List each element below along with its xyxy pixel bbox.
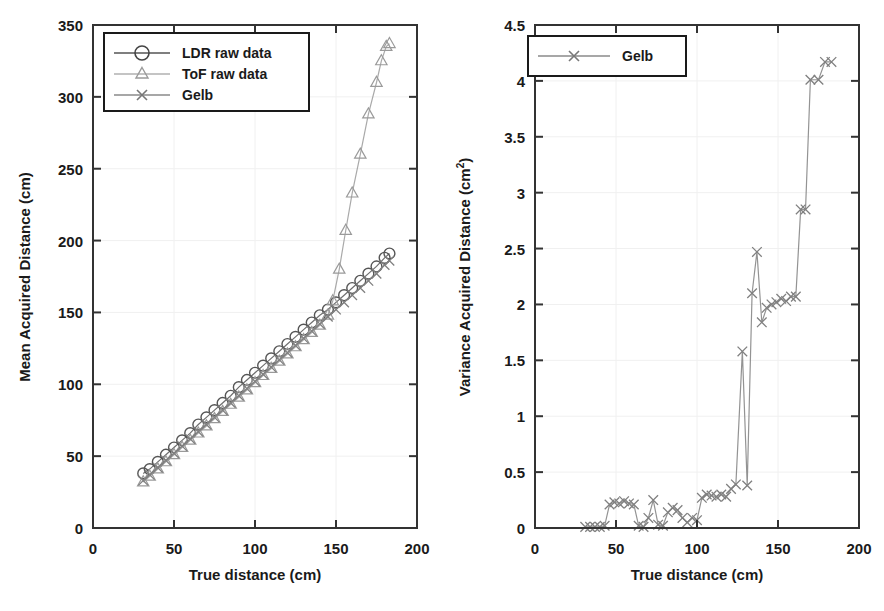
legend-label-gelb: Gelb <box>182 87 213 103</box>
x-tick-label: 0 <box>531 540 539 557</box>
y-tick-label: 3 <box>517 185 525 202</box>
figure-container: 050100150200050100150200250300350 True d… <box>0 0 884 611</box>
x-tick-label: 200 <box>404 540 429 557</box>
x-tick-label: 200 <box>846 540 871 557</box>
right-chart-svg: 05010015020000.511.522.533.544.5 True di… <box>442 0 884 611</box>
legend-label-ldr: LDR raw data <box>182 45 272 61</box>
y-tick-label: 250 <box>58 161 83 178</box>
y-axis-title-group: Variance Acquired Distance (cm2) <box>455 158 473 396</box>
y-tick-label: 50 <box>66 448 83 465</box>
legend-left: LDR raw data ToF raw data Gelb <box>104 33 309 111</box>
chart-panel-right: 05010015020000.511.522.533.544.5 True di… <box>442 0 884 611</box>
y-tick-label: 350 <box>58 17 83 34</box>
y-tick-label: 2.5 <box>504 241 525 258</box>
y-tick-label: 150 <box>58 304 83 321</box>
legend-label-gelb: Gelb <box>622 48 653 64</box>
legend-label-tof: ToF raw data <box>182 66 268 82</box>
x-tick-label: 100 <box>242 540 267 557</box>
y-tick-label: 300 <box>58 89 83 106</box>
y-tick-label: 4.5 <box>504 17 525 34</box>
y-axis-title-main: Variance Acquired Distance (cm <box>456 168 473 396</box>
x-tick-label: 50 <box>608 540 625 557</box>
x-tick-label: 50 <box>166 540 183 557</box>
x-axis-title: True distance (cm) <box>189 566 322 583</box>
left-chart-svg: 050100150200050100150200250300350 True d… <box>0 0 442 611</box>
x-tick-label: 150 <box>765 540 790 557</box>
y-tick-label: 0 <box>75 520 83 537</box>
y-tick-label: 100 <box>58 376 83 393</box>
y-tick-label: 4 <box>517 73 526 90</box>
x-axis-title: True distance (cm) <box>631 566 764 583</box>
y-tick-label: 1 <box>517 408 525 425</box>
y-tick-label: 3.5 <box>504 129 525 146</box>
y-tick-label: 0.5 <box>504 464 525 481</box>
y-axis-title: Variance Acquired Distance (cm2) <box>455 158 473 396</box>
chart-panel-left: 050100150200050100150200250300350 True d… <box>0 0 442 611</box>
legend-entry-ldr[interactable]: LDR raw data <box>114 45 272 61</box>
y-tick-label: 1.5 <box>504 352 525 369</box>
x-tick-label: 100 <box>684 540 709 557</box>
y-axis-title-close: ) <box>456 158 473 163</box>
y-axis-title: Mean Acquired Distance (cm) <box>16 172 33 382</box>
x-tick-label: 150 <box>323 540 348 557</box>
legend-right: Gelb <box>528 36 686 76</box>
y-tick-label: 2 <box>517 296 525 313</box>
y-tick-label: 200 <box>58 233 83 250</box>
y-tick-label: 0 <box>517 520 525 537</box>
x-tick-label: 0 <box>89 540 97 557</box>
